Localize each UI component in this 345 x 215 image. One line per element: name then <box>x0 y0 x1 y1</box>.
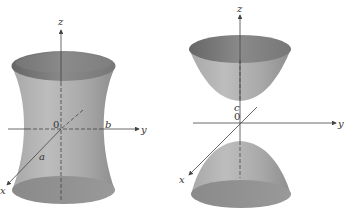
x-axis-label: x <box>179 174 185 185</box>
semi-axis-b-label: b <box>105 119 111 130</box>
lower-sheet-rim <box>191 180 291 208</box>
z-axis-label: z <box>57 16 64 27</box>
top-rim-inner <box>16 53 112 73</box>
y-axis-label: y <box>337 118 344 129</box>
bottom-rim <box>12 176 115 204</box>
hyperboloid-one-sheet: z y x 0 a b <box>0 16 147 204</box>
semi-axis-a-label: a <box>39 151 45 162</box>
origin-label: 0 <box>53 119 59 130</box>
x-axis-label: x <box>0 185 6 196</box>
diagram-canvas: z y x 0 a b z y x 0 c <box>0 0 345 215</box>
hyperboloid-surface <box>12 67 115 190</box>
vertex-c-label: c <box>234 102 240 113</box>
z-axis-label: z <box>236 3 243 14</box>
y-axis-label: y <box>140 124 147 135</box>
hyperboloid-two-sheets: z y x 0 c <box>179 3 344 208</box>
